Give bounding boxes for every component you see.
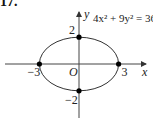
intercept-label: −3 <box>27 65 40 79</box>
origin-label: O <box>69 65 78 79</box>
ellipse-plot: 17. −332−2 x y O 4x² + 9y² = 36 <box>0 0 153 140</box>
intercept-label: 3 <box>122 65 128 79</box>
intercept-point <box>76 35 81 40</box>
equation-label: 4x² + 9y² = 36 <box>93 12 153 24</box>
y-axis-label: y <box>83 7 90 21</box>
intercept-label: 2 <box>69 23 75 37</box>
intercept-label: −2 <box>65 93 78 107</box>
problem-number: 17. <box>0 0 18 9</box>
intercept-point <box>116 61 121 66</box>
x-axis-label: x <box>141 65 148 79</box>
